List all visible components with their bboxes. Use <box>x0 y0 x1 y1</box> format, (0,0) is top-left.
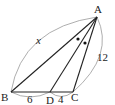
label-c: C <box>71 91 78 103</box>
measure-bd: 6 <box>27 93 33 105</box>
label-b: B <box>1 91 8 103</box>
angle-mark-bad <box>76 37 79 40</box>
angle-mark-dac <box>83 41 86 44</box>
measure-ac: 12 <box>97 51 108 63</box>
label-a: A <box>94 3 102 15</box>
measure-ab: x <box>35 34 41 46</box>
label-d: D <box>46 94 54 105</box>
side-ac <box>73 17 97 92</box>
triangle-diagram: A B D C x 12 6 4 <box>0 0 115 105</box>
side-ad <box>50 17 97 92</box>
measure-dc: 4 <box>58 93 64 105</box>
